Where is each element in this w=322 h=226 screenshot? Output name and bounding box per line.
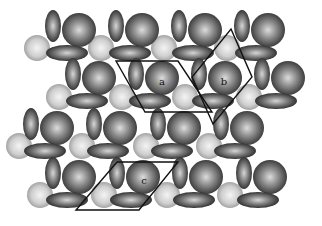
molecular-unit (109, 157, 160, 208)
large-sphere (40, 111, 74, 145)
vertical-ellipsoid (234, 10, 250, 42)
vertical-ellipsoid (45, 10, 61, 42)
small-sphere (46, 84, 72, 110)
molecular-unit (128, 58, 179, 109)
molecular-unit (108, 10, 159, 61)
horizontal-ellipsoid (66, 93, 108, 109)
molecular-unit (172, 157, 223, 208)
horizontal-ellipsoid (46, 45, 88, 61)
large-sphere (103, 111, 137, 145)
molecular-unit (86, 108, 137, 159)
molecular-unit (150, 108, 201, 159)
large-sphere (189, 160, 223, 194)
horizontal-ellipsoid (151, 143, 193, 159)
crystal-packing-diagram: abc (0, 0, 322, 226)
large-sphere (125, 13, 159, 47)
horizontal-ellipsoid (87, 143, 129, 159)
vertical-ellipsoid (23, 108, 39, 140)
molecular-unit (23, 108, 74, 159)
molecular-unit (45, 10, 96, 61)
large-sphere (230, 111, 264, 145)
molecular-unit (191, 58, 242, 109)
cell-label-b: b (221, 76, 227, 87)
vertical-ellipsoid (150, 108, 166, 140)
horizontal-ellipsoid (110, 192, 152, 208)
small-sphere (217, 182, 243, 208)
large-sphere (253, 160, 287, 194)
vertical-ellipsoid (45, 157, 61, 189)
vertical-ellipsoid (108, 10, 124, 42)
molecular-unit (171, 10, 222, 61)
large-sphere (62, 160, 96, 194)
horizontal-ellipsoid (109, 45, 151, 61)
horizontal-ellipsoid (255, 93, 297, 109)
large-sphere (251, 13, 285, 47)
molecular-unit (254, 58, 305, 109)
horizontal-ellipsoid (173, 192, 215, 208)
vertical-ellipsoid (65, 58, 81, 90)
vertical-ellipsoid (213, 108, 229, 140)
large-sphere (167, 111, 201, 145)
large-sphere (271, 61, 305, 95)
vertical-ellipsoid (254, 58, 270, 90)
molecular-unit (65, 58, 116, 109)
small-sphere (172, 84, 198, 110)
horizontal-ellipsoid (46, 192, 88, 208)
molecular-unit (45, 157, 96, 208)
vertical-ellipsoid (86, 108, 102, 140)
cell-label-a: a (159, 76, 165, 87)
molecular-unit (236, 157, 287, 208)
large-sphere (62, 13, 96, 47)
packing-figure: abc (0, 0, 322, 226)
large-sphere (188, 13, 222, 47)
large-sphere (82, 61, 116, 95)
horizontal-ellipsoid (214, 143, 256, 159)
vertical-ellipsoid (171, 10, 187, 42)
horizontal-ellipsoid (24, 143, 66, 159)
small-sphere (24, 35, 50, 61)
vertical-ellipsoid (236, 157, 252, 189)
cell-label-c: c (141, 175, 147, 186)
horizontal-ellipsoid (237, 192, 279, 208)
